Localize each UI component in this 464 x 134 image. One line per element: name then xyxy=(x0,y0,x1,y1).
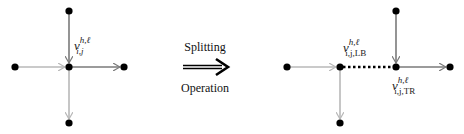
label-sub: i,j xyxy=(76,46,83,56)
splitting-diagram xyxy=(0,0,464,134)
left-graph xyxy=(11,7,127,126)
node-top xyxy=(392,7,399,14)
right-graph xyxy=(283,7,453,126)
node-bottom xyxy=(336,119,343,126)
vertex-tr-label: vh,ℓi,j,TR xyxy=(392,78,415,96)
vertex-label: vh,ℓi,j xyxy=(74,38,84,56)
node-tr xyxy=(392,63,399,70)
node-lb xyxy=(336,63,343,70)
label-sub: i,j,TR xyxy=(394,86,415,96)
label-sup: h,ℓ xyxy=(398,75,409,85)
node-center xyxy=(65,63,72,70)
double-arrow-icon xyxy=(183,59,228,75)
node-right xyxy=(120,63,127,70)
label-sup: h,ℓ xyxy=(349,37,360,47)
node-top xyxy=(65,7,72,14)
vertex-lb-label: vh,ℓi,j,LB xyxy=(343,40,366,58)
operation-top-label: Splitting xyxy=(170,40,240,55)
label-sub: i,j,LB xyxy=(345,48,366,58)
operation-bottom-label: Operation xyxy=(170,81,240,96)
node-right xyxy=(446,63,453,70)
node-bottom xyxy=(65,119,72,126)
node-left xyxy=(11,63,18,70)
node-left xyxy=(283,63,290,70)
label-sup: h,ℓ xyxy=(80,35,91,45)
